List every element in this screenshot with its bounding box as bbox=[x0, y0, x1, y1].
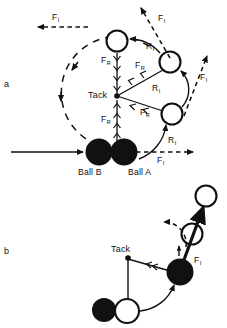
tether-tension-ticks-b bbox=[147, 262, 159, 270]
ball-b-start-solid bbox=[92, 298, 116, 322]
ball-a-solid bbox=[111, 139, 138, 166]
open-circle-upper-right bbox=[160, 52, 181, 73]
trajectory-arrow-upper bbox=[72, 62, 78, 70]
ball-b-label: Ball B bbox=[78, 168, 102, 177]
tether-to-ball-b bbox=[128, 259, 170, 271]
arc-lower-to-upper-right bbox=[181, 71, 189, 107]
ball-a-label: Ball A bbox=[128, 168, 151, 177]
physics-force-diagram bbox=[0, 0, 227, 328]
force-label-fr-lower-mid: FR bbox=[101, 115, 111, 124]
panel-a-group bbox=[11, 8, 207, 166]
tack-label-a: Tack bbox=[88, 91, 107, 100]
force-label-fi-top-right: FI bbox=[158, 14, 165, 23]
ball-a-struck-solid bbox=[167, 259, 194, 286]
force-label-fr-upper-mid: FR bbox=[101, 56, 111, 65]
arc-upper-right-to-top bbox=[130, 39, 160, 53]
open-circle-lower-right bbox=[162, 104, 183, 125]
panel-letter-b: b bbox=[4, 247, 9, 256]
force-label-fi-right: FI bbox=[200, 73, 207, 82]
force-label-fi-top-left: FI bbox=[52, 13, 59, 22]
open-circle-top bbox=[107, 31, 128, 52]
force-label-fr-upper-right: FR bbox=[135, 61, 145, 70]
force-label-fr-mid-right: FR bbox=[140, 108, 150, 117]
open-circle-top-b bbox=[196, 186, 217, 207]
force-fi-right-arrow bbox=[184, 56, 207, 116]
radius-label-ri-mid: RI bbox=[152, 84, 160, 93]
force-label-fi-bottom: FI bbox=[157, 156, 164, 165]
ball-a-start-open bbox=[115, 299, 139, 323]
ball-b-solid bbox=[86, 139, 113, 166]
radius-label-ri-lower: RI bbox=[168, 136, 176, 145]
force-fr-upper-right-ticks bbox=[129, 71, 147, 85]
swing-arc-b bbox=[140, 285, 174, 311]
force-label-fi-panel-b: FI bbox=[194, 256, 201, 265]
radius-label-ri-upper: RI bbox=[146, 42, 154, 51]
tack-label-b: Tack bbox=[111, 245, 130, 254]
tack-pivot-dot bbox=[114, 93, 120, 99]
arc-ball-to-lower-right bbox=[139, 125, 166, 159]
panel-letter-a: a bbox=[4, 80, 9, 89]
